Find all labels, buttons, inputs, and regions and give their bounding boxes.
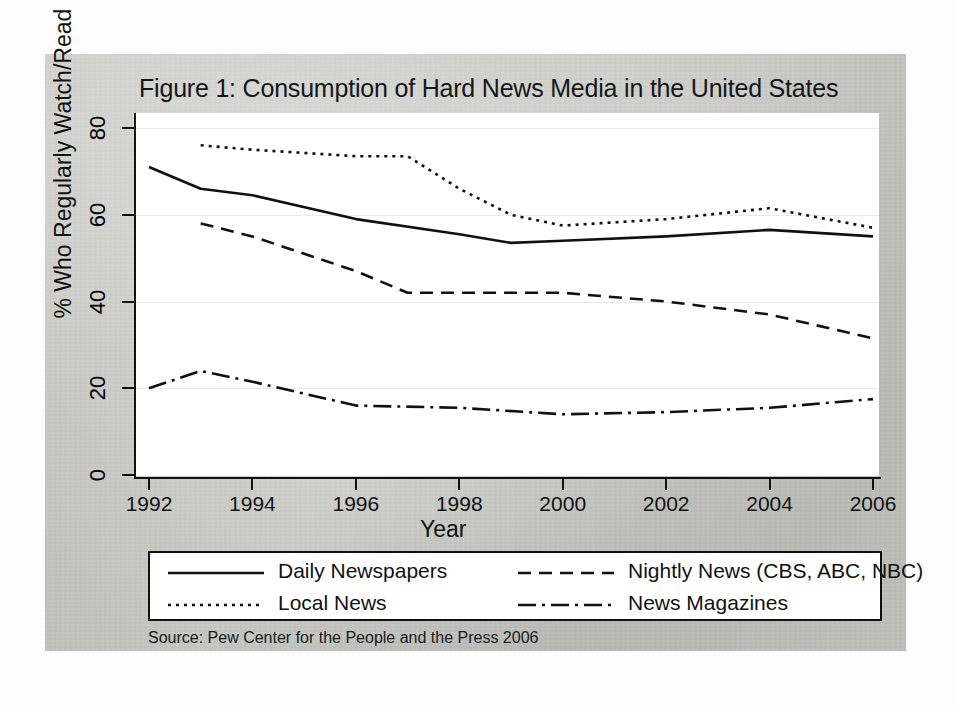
- legend-label-daily-newspapers: Daily Newspapers: [278, 559, 447, 583]
- x-tick-2002: [665, 479, 667, 490]
- legend-label-local-news: Local News: [278, 591, 387, 615]
- y-tick-label-60: 60: [78, 203, 118, 227]
- x-tick-1998: [458, 479, 460, 490]
- x-tick-1996: [355, 479, 357, 490]
- x-tick-2000: [562, 479, 564, 490]
- x-tick-2006: [872, 479, 874, 490]
- legend-label-news-magazines: News Magazines: [628, 591, 788, 615]
- series-line-news-magazines: [149, 371, 873, 414]
- x-tick-label-2002: 2002: [631, 492, 701, 516]
- legend-key-daily-newspapers: [168, 565, 264, 585]
- x-tick-1992: [148, 479, 150, 490]
- x-tick-label-1998: 1998: [424, 492, 494, 516]
- x-tick-label-1992: 1992: [114, 492, 184, 516]
- y-tick-40: [122, 301, 134, 303]
- x-tick-label-1994: 1994: [217, 492, 287, 516]
- y-axis-label: % Who Regularly Watch/Read: [50, 69, 77, 319]
- x-tick-label-2006: 2006: [838, 492, 908, 516]
- x-tick-label-2000: 2000: [528, 492, 598, 516]
- x-axis-label: Year: [420, 516, 466, 543]
- legend-key-local-news: [168, 597, 264, 617]
- source-note: Source: Pew Center for the People and th…: [148, 629, 538, 647]
- y-tick-20: [122, 387, 134, 389]
- series-line-daily-newspapers: [149, 167, 873, 243]
- series-lines: [135, 113, 879, 476]
- x-tick-1994: [251, 479, 253, 490]
- legend-key-news-magazines: [518, 597, 614, 617]
- x-tick-label-2004: 2004: [735, 492, 805, 516]
- x-tick-2004: [769, 479, 771, 490]
- y-tick-label-20: 20: [78, 376, 118, 400]
- y-tick-label-40: 40: [78, 290, 118, 314]
- y-tick-0: [122, 474, 134, 476]
- x-tick-label-1996: 1996: [321, 492, 391, 516]
- figure-page: Figure 1: Consumption of Hard News Media…: [0, 0, 957, 711]
- y-tick-80: [122, 127, 134, 129]
- y-tick-label-80: 80: [78, 116, 118, 140]
- chart-legend: Daily Newspapers Local News Nightly News…: [148, 551, 882, 621]
- y-tick-60: [122, 214, 134, 216]
- legend-key-nightly-news: [518, 565, 614, 585]
- plot-panel: [135, 113, 879, 476]
- y-axis-line: [134, 113, 136, 479]
- y-tick-label-0: 0: [78, 463, 118, 487]
- legend-label-nightly-news: Nightly News (CBS, ABC, NBC): [628, 559, 923, 583]
- figure-title: Figure 1: Consumption of Hard News Media…: [139, 74, 899, 108]
- series-line-local-news: [201, 145, 873, 228]
